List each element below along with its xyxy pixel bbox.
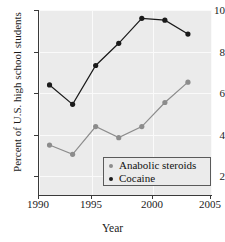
data-point <box>93 124 98 129</box>
x-tick-label: 1990 <box>18 199 58 210</box>
legend-item-cocaine: Cocaine <box>109 172 210 185</box>
data-point <box>47 142 52 147</box>
legend-marker-icon <box>109 164 113 168</box>
series-line <box>50 18 188 104</box>
data-point <box>162 100 167 105</box>
data-point <box>116 41 121 46</box>
x-tick-label: 1995 <box>71 199 111 210</box>
x-axis-title: Year <box>0 222 225 234</box>
y-axis-title: Percent of U.S. high school students <box>11 12 23 172</box>
legend-marker-icon <box>109 177 113 181</box>
data-point <box>139 16 144 21</box>
legend: Anabolic steroids Cocaine <box>103 157 211 186</box>
series-anabolic-steroids <box>47 80 191 157</box>
data-point <box>70 102 75 107</box>
legend-label: Anabolic steroids <box>119 160 196 171</box>
legend-item-anabolic-steroids: Anabolic steroids <box>109 159 210 172</box>
x-tick-label: 2005 <box>190 199 225 210</box>
data-point <box>93 63 98 68</box>
data-point <box>47 82 52 87</box>
data-point <box>70 152 75 157</box>
data-point <box>185 31 190 36</box>
legend-label: Cocaine <box>119 173 155 184</box>
data-point <box>116 135 121 140</box>
data-point <box>162 18 167 23</box>
data-point <box>185 80 190 85</box>
data-point <box>139 124 144 129</box>
series-cocaine <box>47 16 191 107</box>
line-chart: 10 8 6 4 2 1990 1995 2000 2005 Percent o… <box>0 0 225 242</box>
series-line <box>50 82 188 154</box>
gridline-vertical <box>211 10 212 195</box>
x-tick-label: 2000 <box>132 199 172 210</box>
